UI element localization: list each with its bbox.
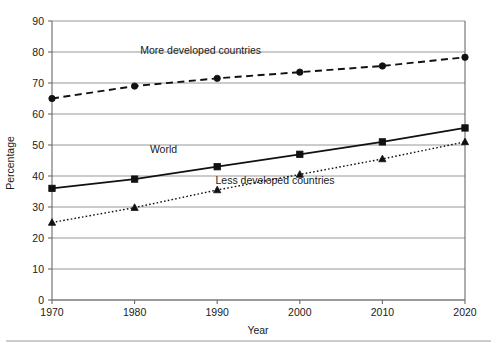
y-tick-label: 80 (32, 46, 44, 58)
series-label-1: World (150, 143, 177, 155)
data-point-square (379, 139, 385, 145)
data-point-square (297, 151, 303, 157)
series-markers (48, 54, 468, 225)
x-tick-label: 2010 (371, 306, 395, 318)
series-line-0 (52, 57, 465, 98)
series-label-2: Less developed countries (215, 174, 334, 186)
axes (48, 21, 465, 304)
x-tick-label: 1970 (40, 306, 64, 318)
data-point-circle (131, 83, 137, 89)
data-point-square (49, 185, 55, 191)
y-tick-labels: 0102030405060708090 (32, 15, 44, 306)
data-point-circle (379, 63, 385, 69)
series-label-0: More developed countries (140, 44, 261, 56)
series-lines (52, 57, 465, 222)
chart-container: 0102030405060708090 19701980199020002010… (0, 0, 497, 343)
y-tick-label: 70 (32, 77, 44, 89)
y-tick-label: 30 (32, 201, 44, 213)
y-tick-label: 20 (32, 232, 44, 244)
data-point-triangle (214, 186, 221, 193)
x-tick-labels: 197019801990200020102020 (40, 306, 477, 318)
y-tick-label: 50 (32, 139, 44, 151)
x-tick-label: 1980 (123, 306, 147, 318)
y-tick-label: 10 (32, 263, 44, 275)
data-point-square (462, 125, 468, 131)
data-point-square (214, 164, 220, 170)
y-tick-label: 0 (38, 294, 44, 306)
y-axis-title: Percentage (4, 136, 16, 190)
x-axis-title: Year (247, 324, 269, 336)
data-point-circle (49, 95, 55, 101)
data-point-circle (214, 75, 220, 81)
data-point-triangle (48, 219, 55, 226)
data-point-triangle (461, 138, 468, 145)
y-tick-label: 60 (32, 108, 44, 120)
y-tick-label: 90 (32, 15, 44, 27)
line-chart: 0102030405060708090 19701980199020002010… (0, 0, 497, 343)
y-tick-label: 40 (32, 170, 44, 182)
data-point-circle (462, 54, 468, 60)
data-point-circle (297, 69, 303, 75)
x-tick-label: 2000 (288, 306, 312, 318)
data-point-square (131, 176, 137, 182)
x-tick-label: 2020 (453, 306, 477, 318)
x-tick-label: 1990 (206, 306, 230, 318)
